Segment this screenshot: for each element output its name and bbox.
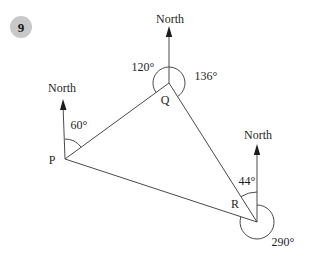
bearings-diagram: 9 North North North — [0, 0, 310, 257]
north-label-r: North — [244, 128, 272, 142]
question-number-badge: 9 — [10, 16, 32, 38]
angle-label-r-44: 44° — [239, 174, 256, 188]
north-label-p: North — [48, 81, 76, 95]
north-arrowhead-r-icon — [254, 144, 260, 155]
north-label-q: North — [156, 12, 184, 26]
question-number: 9 — [18, 20, 25, 35]
vertex-label-q: Q — [161, 93, 170, 107]
angle-label-q-136: 136° — [195, 69, 218, 83]
side-pr — [65, 159, 257, 222]
angle-label-q-120: 120° — [132, 60, 155, 74]
north-arrow-q: North — [156, 12, 184, 83]
vertex-labels: P Q R — [49, 93, 239, 211]
north-arrowhead-p-icon — [60, 99, 67, 110]
vertex-label-r: R — [231, 197, 239, 211]
angle-arcs — [65, 67, 274, 239]
side-qr — [169, 83, 257, 222]
angle-label-p-60: 60° — [71, 118, 88, 132]
angle-label-r-290: 290° — [272, 235, 295, 249]
north-arrowhead-q-icon — [166, 26, 172, 37]
north-line-p — [63, 110, 65, 159]
angle-arc-r-44 — [241, 192, 257, 197]
vertex-label-p: P — [49, 153, 56, 167]
angle-labels: 60° 120° 136° 44° 290° — [71, 60, 295, 249]
angle-arc-p-60 — [65, 139, 81, 147]
worksheet-page: 9 North North North — [0, 0, 310, 257]
